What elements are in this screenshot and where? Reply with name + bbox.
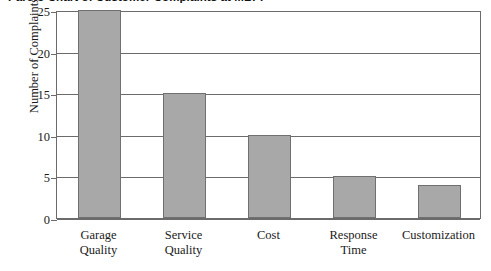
x-axis-label-line: Quality xyxy=(141,243,226,258)
y-tick-label: 0 xyxy=(44,213,50,228)
x-axis-label: GarageQuality xyxy=(56,228,141,258)
bars-layer xyxy=(57,11,480,218)
bar xyxy=(418,185,461,218)
x-axis-label-line: Service xyxy=(141,228,226,243)
y-tick-label: 10 xyxy=(38,129,51,144)
bar xyxy=(333,176,376,218)
plot-area: 0510152025 xyxy=(56,11,481,219)
x-axis-label-line: Time xyxy=(311,243,396,258)
x-axis-labels: GarageQualityServiceQualityCostResponseT… xyxy=(56,228,481,270)
x-axis-label-line: Quality xyxy=(56,243,141,258)
y-tick-label: 15 xyxy=(38,88,51,103)
bar xyxy=(163,93,206,218)
y-tick-label: 20 xyxy=(38,46,51,61)
x-axis-label: Cost xyxy=(226,228,311,243)
x-axis-label-line: Cost xyxy=(226,228,311,243)
x-axis-label: Customization xyxy=(396,228,481,243)
bar xyxy=(78,10,121,218)
y-tick-mark xyxy=(51,220,57,221)
y-axis-title: Number of Complaints xyxy=(27,0,42,146)
bar xyxy=(248,135,291,218)
x-axis-label: ResponseTime xyxy=(311,228,396,258)
y-tick-label: 5 xyxy=(44,171,50,186)
chart-screenshot: Pareto Chart of Customer Complaints at M… xyxy=(0,0,491,271)
x-axis-label-line: Response xyxy=(311,228,396,243)
chart-title: Pareto Chart of Customer Complaints at M… xyxy=(8,0,478,3)
y-tick-label: 25 xyxy=(38,5,51,20)
x-axis-label-line: Customization xyxy=(396,228,481,243)
gridline: 0 xyxy=(57,219,480,220)
x-axis-label-line: Garage xyxy=(56,228,141,243)
x-axis-label: ServiceQuality xyxy=(141,228,226,258)
